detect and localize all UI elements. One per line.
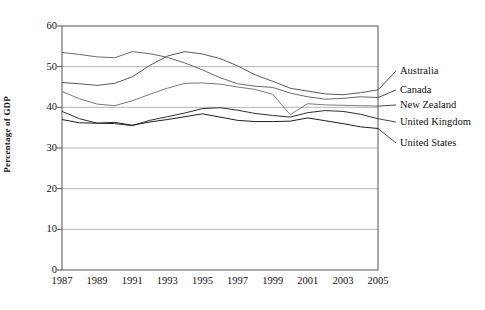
- plot-area: [0, 0, 485, 310]
- legend-leader-line: [378, 105, 396, 106]
- legend-leader-line: [378, 71, 396, 90]
- legend-leader-line: [378, 90, 396, 98]
- series-line-united-states: [62, 114, 378, 129]
- line-chart: Percentage of GDP 0102030405060 19871989…: [0, 0, 485, 310]
- series-line-australia: [62, 52, 378, 95]
- legend-leader-line: [378, 119, 396, 122]
- legend-leader-line: [378, 128, 396, 143]
